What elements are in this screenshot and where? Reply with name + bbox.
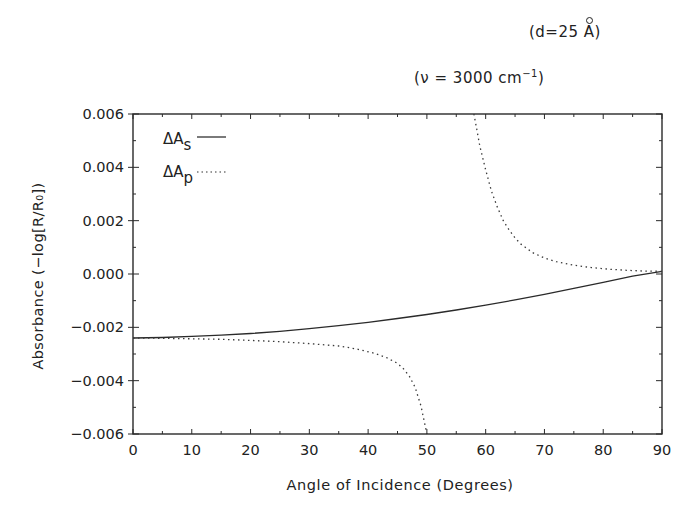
- x-tick-label: 70: [535, 442, 553, 458]
- axis-ticks: [128, 114, 662, 434]
- y-tick-label: 0.004: [82, 159, 124, 175]
- legend-label-s: ΔAs: [163, 130, 192, 154]
- y-tick-labels: −0.006−0.004−0.0020.0000.0020.0040.006: [70, 106, 124, 442]
- x-axis-label: Angle of Incidence (Degrees): [286, 477, 513, 493]
- plot-frame: [133, 114, 662, 434]
- data-curves: [133, 114, 662, 434]
- y-tick-label: −0.002: [70, 319, 124, 335]
- y-tick-label: −0.006: [70, 426, 124, 442]
- y-tick-label: 0.002: [82, 213, 124, 229]
- curve-delta-a-p: [133, 338, 427, 434]
- x-tick-label: 20: [241, 442, 259, 458]
- curve-delta-a-p: [474, 114, 662, 271]
- x-tick-labels: 0102030405060708090: [128, 442, 671, 458]
- curve-delta-a-s: [133, 271, 662, 338]
- y-tick-label: 0.006: [82, 106, 124, 122]
- legend: ΔAs ΔAp: [163, 130, 226, 187]
- x-tick-label: 50: [418, 442, 436, 458]
- y-tick-label: 0.000: [82, 266, 124, 282]
- angstrom-symbol: A: [584, 23, 595, 41]
- x-tick-label: 0: [128, 442, 137, 458]
- y-axis-label: Absorbance (−log[R/R₀]): [30, 182, 46, 369]
- y-tick-label: −0.004: [70, 373, 124, 389]
- legend-label-p: ΔAp: [163, 163, 193, 187]
- x-tick-label: 10: [183, 442, 201, 458]
- plot-border: [133, 114, 662, 434]
- x-tick-label: 80: [594, 442, 612, 458]
- x-tick-label: 40: [359, 442, 377, 458]
- x-tick-label: 60: [476, 442, 494, 458]
- x-tick-label: 90: [653, 442, 671, 458]
- x-tick-label: 30: [300, 442, 318, 458]
- frequency-annotation: (ν = 3000 cm−1): [414, 68, 544, 87]
- absorbance-chart: 0102030405060708090 −0.006−0.004−0.0020.…: [0, 0, 692, 513]
- thickness-annotation: (d=25 A): [529, 23, 601, 41]
